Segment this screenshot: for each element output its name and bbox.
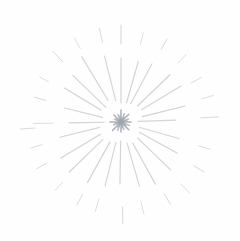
outer-dash: [37, 163, 47, 168]
outer-dash: [181, 184, 190, 193]
main-ray: [69, 122, 104, 123]
outer-dash: [74, 38, 80, 48]
outer-dash: [191, 77, 202, 83]
main-ray: [139, 127, 178, 138]
outer-dash: [95, 199, 99, 212]
outer-dash: [202, 96, 214, 99]
outer-dash: [99, 28, 102, 42]
main-ray: [138, 75, 170, 106]
outer-dash: [164, 194, 170, 204]
main-ray: [88, 142, 110, 182]
main-ray: [138, 138, 171, 170]
main-ray: [127, 143, 139, 186]
main-ray: [105, 56, 116, 101]
main-ray: [138, 120, 176, 121]
main-ray: [82, 57, 108, 101]
main-ray: [142, 106, 185, 117]
main-ray: [65, 108, 103, 117]
outer-dash: [40, 77, 49, 82]
outer-dash: [141, 202, 144, 215]
main-ray: [69, 139, 103, 172]
outer-dash: [161, 39, 167, 50]
main-ray: [120, 141, 121, 184]
core-dot: [119, 120, 123, 124]
sketch-canvas: [0, 0, 240, 241]
outer-dash: [201, 117, 219, 118]
outer-dash: [77, 194, 83, 205]
main-ray: [142, 86, 181, 110]
main-ray: [131, 64, 152, 104]
main-ray: [64, 88, 101, 110]
main-ray: [127, 61, 139, 102]
main-ray: [139, 132, 177, 153]
outer-dash: [55, 182, 63, 190]
main-ray: [61, 134, 100, 158]
outer-dash: [194, 166, 204, 172]
outer-dash: [178, 54, 186, 63]
outer-dash: [53, 52, 63, 62]
outer-dash: [20, 128, 35, 129]
starburst-drawing: [0, 0, 240, 241]
outer-dash: [140, 33, 143, 45]
outer-dash: [34, 97, 46, 100]
main-ray: [133, 143, 156, 184]
starburst-root-group: [20, 25, 219, 224]
main-ray: [60, 127, 100, 137]
outer-dash: [31, 145, 43, 148]
outer-dash: [198, 146, 209, 150]
